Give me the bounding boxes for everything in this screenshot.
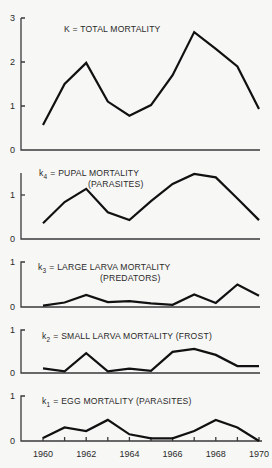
- y-axis: [21, 18, 260, 150]
- y-tick-label: 1: [10, 101, 15, 111]
- panel-pupal-mortality: 1 0 k4= PUPAL MORTALITY (PARASITES): [10, 168, 260, 244]
- panel-small-larva-mortality: 1 0 k2= SMALL LARVA MORTALITY (FROST): [10, 325, 260, 378]
- y-tick-label: 1: [10, 391, 15, 401]
- y-tick-label: 2: [10, 57, 15, 67]
- mortality-chart: 3 2 1 0 K = TOTAL MORTALITY 1 0 k4= PUPA…: [0, 0, 272, 468]
- x-tick-label: 1970: [249, 449, 269, 459]
- panel-title: k3= LARGE LARVA MORTALITY: [38, 262, 171, 274]
- y-tick-label: 3: [10, 13, 15, 23]
- panel-title: k4= PUPAL MORTALITY: [39, 168, 139, 180]
- panel-large-larva-mortality: 1 0 k3= LARGE LARVA MORTALITY (PREDATORS…: [10, 257, 260, 312]
- panel-title: k2= SMALL LARVA MORTALITY (FROST): [42, 331, 212, 343]
- x-tick-label: 1960: [33, 449, 53, 459]
- panel-subtitle: (PARASITES): [88, 179, 144, 189]
- series-line: [43, 420, 259, 441]
- panel-title: K = TOTAL MORTALITY: [64, 24, 161, 34]
- panel-egg-mortality: 1 0 k1= EGG MORTALITY (PARASITES) 1960 1…: [10, 391, 269, 459]
- series-line: [43, 285, 259, 306]
- x-tick-label: 1962: [76, 449, 96, 459]
- y-tick-label: 1: [10, 190, 15, 200]
- y-tick-label: 0: [10, 302, 15, 312]
- series-line: [43, 349, 259, 371]
- panel-subtitle: (PREDATORS): [100, 273, 161, 283]
- series-line: [43, 32, 259, 125]
- y-tick-label: 0: [10, 145, 15, 155]
- y-tick-label: 1: [10, 257, 15, 267]
- panel-title: k1= EGG MORTALITY (PARASITES): [42, 396, 192, 408]
- y-tick-label: 0: [10, 436, 15, 446]
- x-tick-label: 1964: [119, 449, 139, 459]
- x-tick-label: 1968: [206, 449, 226, 459]
- y-tick-label: 1: [10, 325, 15, 335]
- panel-total-mortality: 3 2 1 0 K = TOTAL MORTALITY: [10, 13, 260, 155]
- series-line: [43, 174, 259, 223]
- x-tick-label: 1966: [163, 449, 183, 459]
- y-tick-label: 0: [10, 368, 15, 378]
- y-tick-label: 0: [10, 234, 15, 244]
